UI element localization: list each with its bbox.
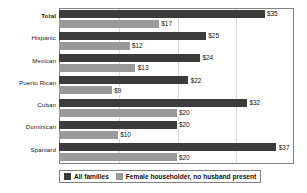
category-row-dominican: Dominican $20 $10	[0, 119, 307, 141]
bar-female-householder	[59, 131, 118, 139]
legend-item-all-families: All families	[64, 173, 109, 181]
bar-group-all-families: $32	[59, 99, 294, 107]
bar-value-all-families: $37	[278, 144, 291, 152]
legend-item-female-householder: Female householder, no husband present	[116, 173, 256, 181]
bar-value-all-families: $20	[178, 121, 191, 129]
bar-female-householder	[59, 86, 112, 94]
bar-value-all-families: $35	[266, 10, 279, 18]
bar-all-families	[59, 99, 247, 107]
bar-all-families	[59, 32, 206, 40]
category-row-total: Total $35 $17	[0, 8, 307, 30]
bar-female-householder	[59, 42, 130, 50]
bar-group-female-householder: $13	[59, 64, 294, 72]
bar-value-female-householder: $13	[137, 64, 150, 72]
bar-all-families	[59, 121, 177, 129]
category-label: Dominican	[0, 123, 56, 131]
bar-all-families	[59, 143, 276, 151]
bar-value-all-families: $24	[201, 54, 214, 62]
bar-group-female-householder: $17	[59, 20, 294, 28]
bar-value-female-householder: $20	[178, 154, 191, 162]
legend-label: Female householder, no husband present	[126, 173, 256, 181]
bar-female-householder	[59, 153, 177, 161]
category-row-spaniard: Spaniard $37 $20	[0, 142, 307, 164]
category-label: Spaniard	[0, 146, 56, 154]
category-label: Total	[0, 12, 56, 20]
category-label: Puerto Rican	[0, 79, 56, 87]
bar-all-families	[59, 76, 188, 84]
bar-value-all-families: $32	[248, 99, 261, 107]
category-label: Hispanic	[0, 34, 56, 42]
legend-swatch-icon	[64, 173, 71, 180]
bar-group-female-householder: $12	[59, 42, 294, 50]
bar-group-all-families: $35	[59, 10, 294, 18]
bar-chart: Total $35 $17 Hispanic $25 $12 Mexican	[0, 0, 307, 193]
bar-value-all-families: $25	[207, 32, 220, 40]
category-row-cuban: Cuban $32 $20	[0, 97, 307, 119]
category-label: Cuban	[0, 101, 56, 109]
bar-female-householder	[59, 109, 177, 117]
category-row-puerto-rican: Puerto Rican $22 $9	[0, 75, 307, 97]
legend-label: All families	[74, 173, 109, 181]
category-label: Mexican	[0, 57, 56, 65]
chart-legend: All families Female householder, no husb…	[59, 170, 261, 183]
bar-group-female-householder: $20	[59, 109, 294, 117]
category-row-hispanic: Hispanic $25 $12	[0, 30, 307, 52]
chart-rows: Total $35 $17 Hispanic $25 $12 Mexican	[0, 8, 307, 164]
legend-swatch-icon	[116, 173, 123, 180]
bar-value-female-householder: $10	[119, 131, 132, 139]
bar-group-all-families: $25	[59, 32, 294, 40]
bar-group-female-householder: $10	[59, 131, 294, 139]
bar-female-householder	[59, 64, 135, 72]
bar-female-householder	[59, 20, 159, 28]
bar-all-families	[59, 54, 200, 62]
bar-group-female-householder: $20	[59, 153, 294, 161]
bar-value-female-householder: $9	[113, 87, 122, 95]
category-row-mexican: Mexican $24 $13	[0, 53, 307, 75]
bar-group-all-families: $24	[59, 54, 294, 62]
bar-group-female-householder: $9	[59, 86, 294, 94]
bar-value-all-families: $22	[190, 77, 203, 85]
bar-all-families	[59, 10, 265, 18]
bar-group-all-families: $20	[59, 121, 294, 129]
bar-value-female-householder: $17	[160, 20, 173, 28]
bar-value-female-householder: $20	[178, 109, 191, 117]
bar-group-all-families: $37	[59, 143, 294, 151]
bar-group-all-families: $22	[59, 76, 294, 84]
bar-value-female-householder: $12	[131, 42, 144, 50]
